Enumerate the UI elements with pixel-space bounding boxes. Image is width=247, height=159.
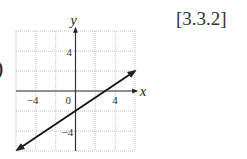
x-axis-label: x	[139, 84, 147, 99]
tick-label: 4	[112, 94, 118, 106]
y-axis-label: y	[69, 13, 78, 28]
tick-label: 0	[66, 94, 72, 106]
tick-label: −4	[62, 126, 74, 138]
tick-label: 4	[67, 46, 73, 58]
tick-label: −4	[27, 94, 39, 106]
line-graph: xy−4044−4	[0, 0, 247, 159]
